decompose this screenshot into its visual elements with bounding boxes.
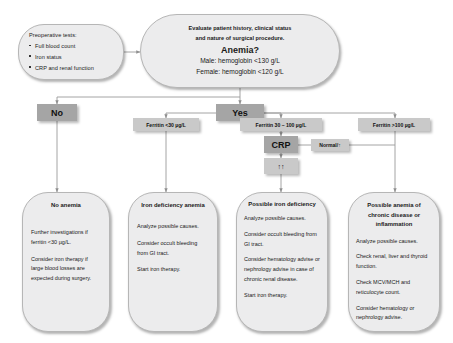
outcome-paragraph: Further investigations if ferritin <30 µ… bbox=[31, 228, 101, 248]
outcome-paragraph: Consider occult bleeding from GI tract. bbox=[244, 230, 320, 250]
list-item: CRP and renal function bbox=[29, 63, 119, 74]
outcome-paragraph: Consider occult bleeding from GI tract. bbox=[137, 239, 209, 259]
outcome-paragraph: Analyze possible causes. bbox=[137, 222, 209, 232]
crp-high-branch-chip: ↑↑ bbox=[264, 158, 298, 174]
outcome-paragraph: Analyze possible causes. bbox=[356, 237, 432, 247]
outcome-paragraph: Analyze possible causes. bbox=[244, 214, 320, 224]
evaluate-line-2: and nature of surgical procedure. bbox=[189, 34, 292, 44]
outcome-paragraph: Start iron therapy. bbox=[137, 265, 209, 275]
outcome-iron-deficiency-anemia-node: Iron deficiency anemia Analyze possible … bbox=[128, 192, 218, 332]
ferritin-mid-label: Ferritin 30 – 100 µg/L bbox=[256, 122, 307, 128]
ferritin-low-chip: Ferritin <30 µg/L bbox=[133, 118, 199, 131]
outcome-paragraph: Check MCV/MCH and reticulocyte count. bbox=[356, 278, 432, 298]
preoperative-tests-title: Preoperative tests: bbox=[22, 30, 119, 41]
outcome-title: Possible iron deficiency bbox=[244, 201, 320, 207]
outcome-paragraph: Check renal, liver and thyroid function. bbox=[356, 252, 432, 272]
crp-normal-branch-label: Normal/↑ bbox=[319, 142, 341, 148]
decision-no-label: No bbox=[51, 108, 63, 118]
outcome-paragraph: Consider iron therapy if large blood los… bbox=[31, 255, 101, 284]
ferritin-low-label: Ferritin <30 µg/L bbox=[146, 122, 186, 128]
outcome-title: Iron deficiency anemia bbox=[137, 202, 209, 208]
outcome-paragraph: Start iron therapy. bbox=[244, 291, 320, 301]
crp-high-branch-label: ↑↑ bbox=[278, 163, 285, 170]
ferritin-mid-chip: Ferritin 30 – 100 µg/L bbox=[240, 118, 322, 131]
evaluate-anemia-node: Evaluate patient history, clinical statu… bbox=[140, 14, 340, 88]
preoperative-tests-node: Preoperative tests: Full blood count Iro… bbox=[18, 24, 124, 80]
flowchart-canvas: Preoperative tests: Full blood count Iro… bbox=[0, 0, 453, 343]
male-criterion: Male: hemoglobin <130 g/L bbox=[196, 56, 283, 67]
preoperative-tests-list: Full blood count Iron status CRP and ren… bbox=[22, 41, 119, 74]
outcome-possible-anemia-chronic-disease-node: Possible anemia of chronic disease or in… bbox=[348, 192, 440, 332]
list-item: Full blood count bbox=[29, 41, 119, 52]
anemia-question: Anemia? bbox=[221, 45, 259, 55]
outcome-no-anemia-node: No anemia Further investigations if ferr… bbox=[22, 192, 110, 332]
outcome-possible-iron-deficiency-node: Possible iron deficiency Analyze possibl… bbox=[236, 192, 328, 332]
crp-chip[interactable]: CRP bbox=[264, 136, 298, 153]
crp-normal-branch-chip: Normal/↑ bbox=[311, 139, 349, 151]
decision-no-chip[interactable]: No bbox=[37, 104, 77, 121]
outcome-paragraph: Consider hematology advise or nephrology… bbox=[244, 255, 320, 284]
decision-yes-label: Yes bbox=[232, 108, 248, 118]
list-item: Iron status bbox=[29, 52, 119, 63]
ferritin-high-label: Ferritin >100 µg/L bbox=[373, 122, 415, 128]
outcome-title: Possible anemia of chronic disease or in… bbox=[356, 201, 432, 230]
ferritin-high-chip: Ferritin >100 µg/L bbox=[358, 118, 430, 131]
crp-label: CRP bbox=[271, 140, 290, 150]
outcome-title: No anemia bbox=[31, 202, 101, 208]
female-criterion: Female: hemoglobin <120 g/L bbox=[196, 67, 283, 78]
evaluate-line-1: Evaluate patient history, clinical statu… bbox=[189, 24, 292, 34]
outcome-paragraph: Consider hematology or nephrology advise… bbox=[356, 304, 432, 324]
